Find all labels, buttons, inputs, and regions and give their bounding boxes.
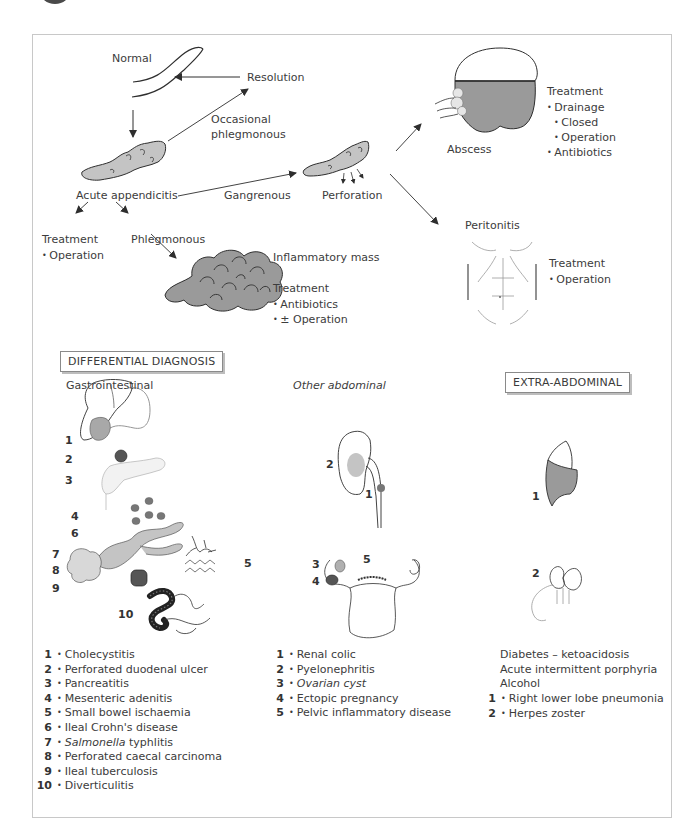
- label-inflammatory-mass: Inflammatory mass: [273, 251, 380, 265]
- mesenteric-vessels-icon: [185, 536, 216, 572]
- list-item: 2•Perforated duodenal ulcer: [36, 663, 222, 678]
- figure-number: 2: [532, 567, 540, 580]
- figure-number: 6: [71, 527, 79, 540]
- figure-number: 5: [244, 557, 252, 570]
- gastrointestinal-heading: Gastrointestinal: [66, 379, 153, 393]
- list-item: 1•Right lower lobe pneumonia: [480, 692, 664, 707]
- list-item: 4•Ectopic pregnancy: [268, 692, 451, 707]
- figure-number: 4: [71, 510, 79, 523]
- duodenal-ulcer-icon: [115, 450, 127, 462]
- label-peritonitis: Peritonitis: [465, 219, 520, 233]
- list-item: 3•Pancreatitis: [36, 677, 222, 692]
- abscess-icon: [435, 48, 537, 132]
- treatment-item: Operation: [42, 248, 104, 263]
- acute-appendix-icon: [82, 141, 166, 180]
- list-item: 1•Renal colic: [268, 648, 451, 663]
- treatment-item: Antibiotics: [547, 145, 616, 160]
- list-item: Acute intermittent porphyria: [500, 663, 657, 678]
- pancreas-icon: [102, 458, 165, 494]
- acute-treatment-heading: Treatment: [42, 233, 98, 247]
- treatment-item: Operation: [547, 130, 616, 145]
- figure-number: 10: [118, 608, 133, 621]
- peritonitis-treatment-list: Operation: [549, 272, 611, 287]
- ureteric-stone-icon: [377, 484, 385, 492]
- treatment-item: Antibiotics: [273, 297, 348, 312]
- extra-abdominal-plain-list: Diabetes – ketoacidosis Acute intermitte…: [500, 648, 657, 692]
- abdomen-torso-icon: [468, 242, 536, 324]
- right-lung-icon: [546, 441, 577, 506]
- label-phlegmonous-occasional: phlegmonous: [211, 128, 286, 142]
- abscess-treatment-heading: Treatment: [547, 85, 603, 99]
- label-perforation: Perforation: [322, 189, 382, 203]
- peritonitis-treatment-heading: Treatment: [549, 257, 605, 271]
- list-item: 5•Small bowel ischaemia: [36, 706, 222, 721]
- list-item: 7•Salmonella typhlitis: [36, 736, 222, 751]
- figure-number: 1: [532, 490, 540, 503]
- label-abscess: Abscess: [447, 143, 492, 157]
- navel-icon: [499, 296, 501, 298]
- figure-number: 3: [65, 474, 73, 487]
- list-item: 10•Diverticulitis: [36, 779, 222, 794]
- figure-number: 2: [326, 458, 334, 471]
- figure-number: 8: [52, 564, 60, 577]
- list-item: 8•Perforated caecal carcinoma: [36, 750, 222, 765]
- treatment-item: Closed: [547, 115, 616, 130]
- mass-treatment-list: Antibiotics ± Operation: [273, 297, 348, 327]
- list-item: Diabetes – ketoacidosis: [500, 648, 657, 663]
- acute-treatment-list: Operation: [42, 248, 104, 263]
- treatment-item: ± Operation: [273, 312, 348, 327]
- list-item: 3•Ovarian cyst: [268, 677, 451, 692]
- label-acute-appendicitis: Acute appendicitis: [76, 189, 178, 203]
- list-item: 9•Ileal tuberculosis: [36, 765, 222, 780]
- extra-abdominal-list: 1•Right lower lobe pneumonia 2•Herpes zo…: [480, 692, 664, 721]
- diverticulitis-icon: [150, 591, 210, 634]
- label-resolution: Resolution: [247, 71, 304, 85]
- differential-diagnosis-title: DIFFERENTIAL DIAGNOSIS: [60, 351, 223, 372]
- figure-number: 4: [312, 575, 320, 588]
- label-normal: Normal: [112, 52, 152, 66]
- extra-abdominal-title: EXTRA-ABDOMINAL: [505, 372, 630, 393]
- ovarian-cyst-icon: [335, 560, 345, 572]
- mesenteric-nodes-icon: [131, 497, 165, 524]
- list-item: 6•Ileal Crohn's disease: [36, 721, 222, 736]
- list-item: 4•Mesenteric adenitis: [36, 692, 222, 707]
- other-abdominal-heading: Other abdominal: [293, 379, 386, 393]
- list-item: Alcohol: [500, 677, 657, 692]
- caecal-carcinoma-icon: [131, 570, 147, 586]
- treatment-item: Drainage: [547, 100, 616, 115]
- label-gangrenous: Gangrenous: [224, 189, 291, 203]
- abscess-treatment-list: Drainage Closed Operation Antibiotics: [547, 100, 616, 160]
- figure-number: 1: [365, 488, 373, 501]
- arrow-acute-to-treatment: [76, 202, 88, 213]
- list-item: 2•Pyelonephritis: [268, 663, 451, 678]
- inflammatory-mass-icon: [165, 250, 282, 311]
- figure-number: 5: [363, 553, 371, 566]
- kidney-ureter-icon: [338, 431, 381, 528]
- list-item: 2•Herpes zoster: [480, 707, 664, 722]
- gallbladder-icon: [90, 417, 110, 440]
- arrow-perforation-to-abscess: [396, 124, 421, 151]
- other-abdominal-list: 1•Renal colic 2•Pyelonephritis 3•Ovarian…: [268, 648, 451, 721]
- ileum-caecum-icon: [67, 523, 183, 583]
- figure-number: 9: [52, 582, 60, 595]
- perforated-appendix-icon: [303, 141, 369, 183]
- label-phlegmonous: Phlegmonous: [131, 233, 205, 247]
- gastrointestinal-list: 1•Cholecystitis 2•Perforated duodenal ul…: [36, 648, 222, 794]
- list-item: 5•Pelvic inflammatory disease: [268, 706, 451, 721]
- label-occasional: Occasional: [211, 113, 271, 127]
- figure-number: 3: [312, 558, 320, 571]
- treatment-item: Operation: [549, 272, 611, 287]
- ectopic-pregnancy-icon: [326, 575, 338, 585]
- mass-treatment-heading: Treatment: [273, 282, 329, 296]
- arrow-acute-to-phlegmonous: [116, 202, 128, 213]
- figure-number: 2: [65, 453, 73, 466]
- figure-number: 1: [65, 434, 73, 447]
- figure-number: 7: [52, 548, 60, 561]
- list-item: 1•Cholecystitis: [36, 648, 222, 663]
- arrow-perforation-to-peritonitis: [390, 174, 438, 224]
- pid-inflammation-icon: [358, 577, 386, 580]
- pyelonephritis-icon: [347, 453, 365, 477]
